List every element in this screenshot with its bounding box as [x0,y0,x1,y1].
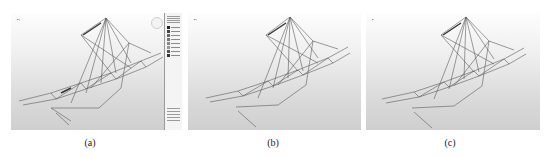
truss-wireframe-a [11,13,182,130]
result-legend [164,13,182,130]
caption-c: (c) [430,137,470,148]
caption-b: (b) [253,137,293,148]
software-logo-icon [151,17,163,29]
truss-wireframe-b [188,13,361,130]
caption-a: (a) [70,137,110,148]
panel-b: ▪▫ [188,13,361,130]
panel-c: ▪ [366,13,540,130]
truss-wireframe-c [366,13,540,130]
panel-a: ▪▫ [11,13,182,130]
